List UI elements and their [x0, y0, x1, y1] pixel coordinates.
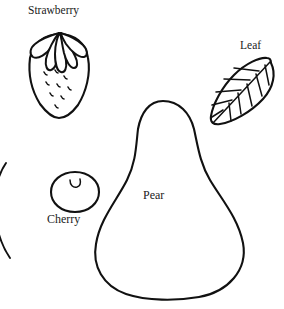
label-leaf: Leaf [240, 40, 261, 52]
label-pear: Pear [143, 189, 164, 201]
illustration-canvas: Strawberry Leaf Cherry Pear [0, 0, 284, 309]
label-cherry: Cherry [47, 213, 80, 225]
strawberry-shape [29, 33, 88, 118]
pear-shape [95, 101, 244, 300]
label-strawberry: Strawberry [28, 5, 79, 17]
partial-shape-left-edge [0, 163, 10, 258]
cherry-shape [51, 172, 99, 212]
leaf-shape [211, 58, 274, 124]
